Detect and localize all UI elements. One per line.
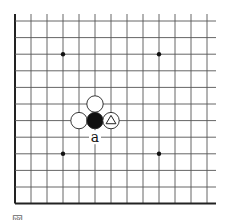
point-label: a <box>89 129 101 145</box>
go-board: a <box>0 0 228 220</box>
grid-lines <box>15 14 216 204</box>
star-point <box>157 152 161 156</box>
point-labels: a <box>89 129 101 145</box>
star-point <box>157 52 161 56</box>
stones <box>71 96 119 129</box>
figure-caption: 図 <box>12 214 28 220</box>
star-point <box>61 52 65 56</box>
star-point <box>61 152 65 156</box>
white-stone-triangle-marked <box>103 112 119 128</box>
white-stone <box>71 112 87 128</box>
svg-text:a: a <box>91 129 99 145</box>
white-stone <box>87 96 103 112</box>
black-stone <box>87 112 103 128</box>
